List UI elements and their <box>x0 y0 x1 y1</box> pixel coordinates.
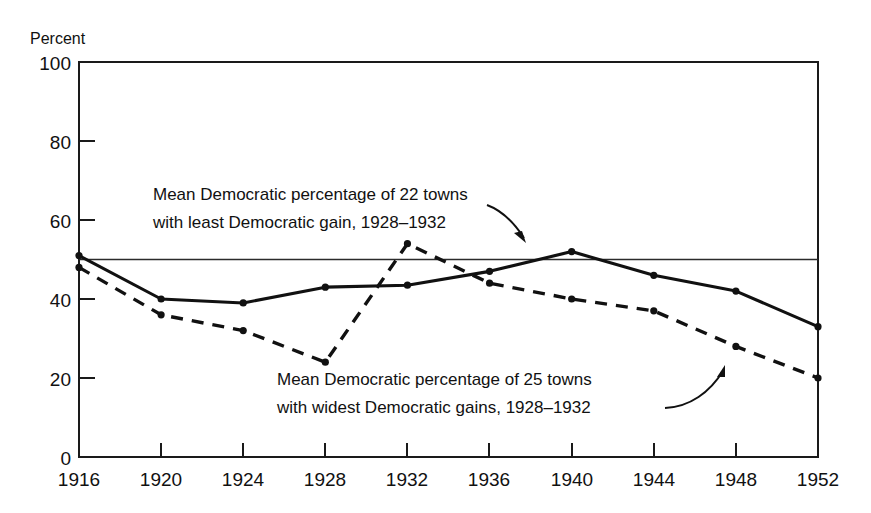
annotation-widest-gains: Mean Democratic percentage of 25 towns w… <box>276 365 725 417</box>
chart-figure: Percent 100 80 60 40 20 0 <box>0 0 871 513</box>
y-tick-label-60: 60 <box>50 211 71 232</box>
data-point-dashed-1940 <box>568 295 575 302</box>
data-point-dashed-1916 <box>75 264 82 271</box>
annotation-widest-gains-line2: with widest Democratic gains, 1928–1932 <box>276 398 591 417</box>
data-point-dashed-1952 <box>814 374 821 381</box>
data-point-solid-1944 <box>650 272 657 279</box>
data-point-dashed-1932 <box>404 240 411 247</box>
x-tick-label-1936: 1936 <box>468 469 510 490</box>
y-tick-label-80: 80 <box>50 132 71 153</box>
data-point-dashed-1944 <box>650 307 657 314</box>
x-tick-label-1924: 1924 <box>222 469 265 490</box>
annotation-widest-gains-line1: Mean Democratic percentage of 25 towns <box>277 370 592 389</box>
data-point-solid-1932 <box>404 282 411 289</box>
y-tick-labels: 100 80 60 40 20 0 <box>39 53 71 469</box>
annotation-least-gain-line2: with least Democratic gain, 1928–1932 <box>152 213 446 232</box>
data-point-solid-1940 <box>568 248 575 255</box>
annotation-widest-gains-arrow <box>665 371 723 408</box>
x-tick-label-1952: 1952 <box>797 469 839 490</box>
series-line-dashed <box>79 244 818 378</box>
chart-canvas: Percent 100 80 60 40 20 0 <box>0 0 871 513</box>
y-axis-title: Percent <box>30 30 86 47</box>
x-tick-label-1948: 1948 <box>715 469 757 490</box>
data-point-solid-1936 <box>486 268 493 275</box>
series-layer <box>75 240 821 382</box>
annotation-least-gain: Mean Democratic percentage of 22 towns w… <box>152 185 526 243</box>
data-point-solid-1924 <box>240 299 247 306</box>
x-tick-label-1928: 1928 <box>304 469 346 490</box>
data-point-solid-1928 <box>322 284 329 291</box>
data-point-solid-1916 <box>75 252 82 259</box>
x-tick-label-1916: 1916 <box>58 469 100 490</box>
x-tick-marks <box>79 443 818 457</box>
x-tick-labels: 1916 1920 1924 1928 1932 1936 1940 1944 … <box>58 469 839 490</box>
data-point-dashed-1924 <box>240 327 247 334</box>
y-tick-label-0: 0 <box>60 448 71 469</box>
data-point-dashed-1948 <box>732 343 739 350</box>
x-tick-label-1944: 1944 <box>633 469 676 490</box>
data-point-solid-1920 <box>158 295 165 302</box>
y-tick-label-40: 40 <box>50 290 71 311</box>
y-tick-label-20: 20 <box>50 369 71 390</box>
x-tick-label-1932: 1932 <box>386 469 428 490</box>
y-tick-label-100: 100 <box>39 53 71 74</box>
x-tick-label-1920: 1920 <box>140 469 182 490</box>
x-tick-label-1940: 1940 <box>551 469 593 490</box>
series-line-solid <box>79 252 818 327</box>
data-point-solid-1948 <box>732 288 739 295</box>
annotation-widest-gains-arrowhead <box>717 365 725 377</box>
data-point-dashed-1920 <box>158 311 165 318</box>
annotation-least-gain-line1: Mean Democratic percentage of 22 towns <box>153 185 468 204</box>
data-point-solid-1952 <box>814 323 821 330</box>
data-point-dashed-1936 <box>486 280 493 287</box>
data-point-dashed-1928 <box>322 359 329 366</box>
